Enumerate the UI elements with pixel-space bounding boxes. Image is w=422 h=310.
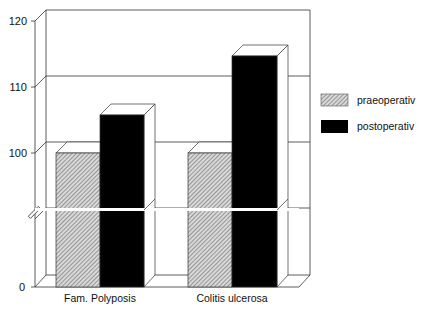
y-tick-110: 110: [9, 81, 27, 93]
x-label-fam-polyposis: Fam. Polyposis: [64, 292, 136, 304]
bar-chart: 120 110 100 0 Fam. Polyposis Colitis ulc…: [0, 0, 422, 310]
bar-fam-polyposis-postoperativ: [100, 104, 155, 287]
y-tick-0: 0: [19, 281, 25, 293]
y-tick-100: 100: [9, 147, 27, 159]
bar-colitis-ulcerosa-postoperativ: [232, 45, 288, 287]
legend: praeoperativ postoperativ: [321, 94, 416, 133]
y-tick-120: 120: [9, 15, 27, 27]
legend-label-postoperativ: postoperativ: [357, 120, 415, 132]
legend-swatch-praeoperativ: [321, 94, 348, 106]
legend-swatch-postoperativ: [321, 120, 348, 133]
x-label-colitis-ulcerosa: Colitis ulcerosa: [196, 292, 267, 304]
legend-label-praeoperativ: praeoperativ: [357, 94, 416, 106]
